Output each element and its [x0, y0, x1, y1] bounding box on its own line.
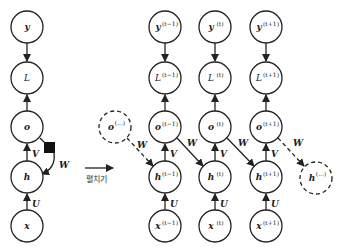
svg-text:o: o	[256, 122, 262, 132]
svg-text:(t): (t)	[216, 71, 223, 78]
unfold-label: 펼치기	[86, 174, 107, 184]
svg-text:o: o	[108, 122, 114, 132]
svg-text:L: L	[154, 73, 161, 83]
node-L-t-plus-1: L (t+1)	[250, 62, 282, 94]
edge-label-U: U	[170, 199, 179, 209]
edge-label-U: U	[271, 199, 280, 209]
svg-text:(t+1): (t+1)	[263, 170, 279, 177]
svg-text:y: y	[154, 22, 161, 32]
edge-label-U: U	[220, 199, 229, 209]
unfold-arrow: 펼치기	[85, 168, 113, 184]
svg-text:(t+1): (t+1)	[263, 20, 279, 27]
svg-text:(t−1): (t−1)	[162, 219, 178, 226]
node-o-t: o (t)	[199, 111, 231, 143]
svg-text:h: h	[208, 172, 215, 182]
unfolded-graph: o (...) W V U y (t−1) L (t−1)	[99, 11, 332, 242]
svg-text:x: x	[207, 221, 214, 231]
node-o-t-minus-1: o (t−1)	[149, 111, 181, 143]
node-h-t-minus-1: h (t−1)	[149, 161, 181, 193]
edge-label-V: V	[220, 149, 228, 159]
delay-square-icon	[44, 142, 55, 153]
node-o: o	[11, 111, 43, 143]
edge-label-W: W	[187, 138, 198, 148]
svg-text:y: y	[207, 22, 214, 32]
node-x-t: x (t)	[199, 210, 231, 242]
svg-text:o: o	[208, 122, 214, 132]
column-t-plus-1: V U y (t+1) L (t+1) o (t+1) h (t+1)	[250, 11, 282, 242]
svg-text:(t+1): (t+1)	[263, 120, 279, 127]
svg-text:y: y	[23, 22, 30, 32]
edge-label-U: U	[32, 199, 41, 209]
node-o-t-plus-1: o (t+1)	[250, 111, 282, 143]
svg-text:(t): (t)	[216, 219, 223, 226]
svg-text:(t): (t)	[216, 20, 223, 27]
node-h: h	[11, 161, 43, 193]
svg-text:(t+1): (t+1)	[263, 219, 279, 226]
svg-text:L: L	[23, 73, 30, 83]
svg-text:(t−1): (t−1)	[162, 20, 178, 27]
svg-text:(t−1): (t−1)	[162, 120, 178, 127]
node-y-t: y (t)	[199, 11, 231, 43]
svg-text:h: h	[309, 173, 316, 183]
svg-text:(...): (...)	[316, 170, 326, 177]
svg-text:(t): (t)	[216, 120, 223, 127]
column-t-minus-1: V U y (t−1) L (t−1) o (t−1) h (t−1)	[149, 11, 181, 242]
svg-text:x: x	[255, 221, 262, 231]
node-L-t-minus-1: L (t−1)	[149, 62, 181, 94]
column-t: V U y (t) L (t) o (t) h (t)	[199, 11, 231, 242]
svg-text:o: o	[155, 122, 161, 132]
node-h-t-plus-1: h (t+1)	[250, 161, 282, 193]
svg-text:(t−1): (t−1)	[162, 71, 178, 78]
edge-label-V: V	[170, 149, 178, 159]
edge-label-W: W	[238, 138, 249, 148]
node-x-t-plus-1: x (t+1)	[250, 210, 282, 242]
rnn-diagram: V W U y L o h x 펼치기	[0, 0, 338, 251]
node-y-t-minus-1: y (t−1)	[149, 11, 181, 43]
svg-text:y: y	[255, 22, 262, 32]
edge-label-V: V	[271, 149, 279, 159]
node-y: y	[11, 11, 43, 43]
node-L-t: L (t)	[199, 62, 231, 94]
node-h-next: h (...)	[300, 162, 332, 194]
folded-graph: V W U y L o h x	[11, 11, 70, 242]
svg-text:L: L	[255, 73, 262, 83]
node-y-t-plus-1: y (t+1)	[250, 11, 282, 43]
svg-text:h: h	[24, 172, 31, 182]
node-L: L	[11, 62, 43, 94]
svg-text:(t): (t)	[216, 170, 223, 177]
svg-text:h: h	[155, 172, 162, 182]
edge-label-W-next: W	[293, 138, 304, 148]
svg-text:x: x	[23, 221, 30, 231]
node-x: x	[11, 210, 43, 242]
svg-text:L: L	[207, 73, 214, 83]
node-x-t-minus-1: x (t−1)	[149, 210, 181, 242]
edge-label-W-prev: W	[137, 140, 148, 150]
svg-text:o: o	[24, 122, 30, 132]
svg-text:(...): (...)	[115, 119, 125, 126]
edge-label-V: V	[32, 149, 40, 159]
node-o-prev: o (...)	[99, 111, 131, 143]
node-h-t: h (t)	[199, 161, 231, 193]
svg-text:x: x	[154, 221, 161, 231]
edge-label-W: W	[59, 160, 70, 170]
svg-text:h: h	[256, 172, 263, 182]
edge-delay-to-h	[42, 153, 54, 174]
svg-text:(t−1): (t−1)	[162, 170, 178, 177]
svg-text:(t+1): (t+1)	[263, 71, 279, 78]
